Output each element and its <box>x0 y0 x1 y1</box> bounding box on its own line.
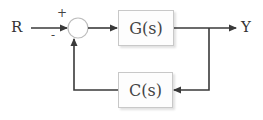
forward-block-g: G(s) <box>118 10 174 46</box>
feedback-branch-line <box>174 28 209 90</box>
summing-junction <box>68 18 88 38</box>
output-label: Y <box>241 20 251 35</box>
minus-sign: - <box>51 29 55 41</box>
feedback-return-line <box>74 39 118 90</box>
input-label: R <box>11 20 22 35</box>
block-diagram: R + - G(s) C(s) Y <box>0 0 263 120</box>
feedback-block-c: C(s) <box>118 72 173 108</box>
plus-sign: + <box>57 7 67 19</box>
